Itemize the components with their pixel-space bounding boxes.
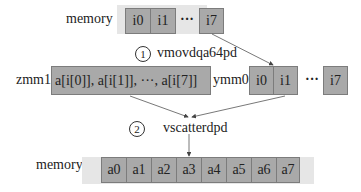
step1-instruction-text: vmovdqa64pd: [157, 45, 237, 60]
top-memory-ellipsis: ···: [180, 8, 194, 32]
bottom-memory-cell-a1: a1: [126, 157, 152, 183]
top-memory-cell-i1: i1: [150, 8, 176, 34]
bottom-memory-cell-a0: a0: [101, 157, 127, 183]
bottom-memory-label: memory: [36, 157, 83, 173]
zmm1-label: zmm1: [16, 72, 51, 88]
zmm1-register: a[i[0]], a[i[1]], ···, a[i[7]]: [51, 66, 211, 95]
ymm0-ellipsis: ···: [305, 68, 319, 92]
step2-instruction-text: vscatterdpd: [163, 120, 228, 135]
bottom-memory-cell-a6: a6: [251, 157, 277, 183]
ymm0-label: ymm0: [213, 72, 249, 88]
ymm0-cell-i7: i7: [323, 66, 348, 95]
step2-number-badge: 2: [129, 121, 145, 137]
bottom-memory-cell-a4: a4: [201, 157, 227, 183]
step1-instruction: 1vmovdqa64pd: [135, 45, 237, 62]
step2-instruction: 2vscatterdpd: [129, 120, 228, 137]
arrow-ymm0-to-scatter: [192, 96, 285, 117]
top-memory-cell-i0: i0: [125, 8, 151, 34]
bottom-memory-cell-a5: a5: [226, 157, 252, 183]
bottom-memory-cell-a7: a7: [276, 157, 300, 183]
ymm0-cell-i1: i1: [273, 66, 298, 95]
top-memory-label: memory: [66, 11, 113, 27]
bottom-memory-cell-a3: a3: [176, 157, 202, 183]
top-memory-cell-i7: i7: [199, 8, 224, 34]
ymm0-cell-i0: i0: [249, 66, 274, 95]
arrow-zmm1-to-scatter: [130, 96, 188, 117]
step1-number-badge: 1: [135, 46, 151, 62]
bottom-memory-cell-a2: a2: [151, 157, 177, 183]
